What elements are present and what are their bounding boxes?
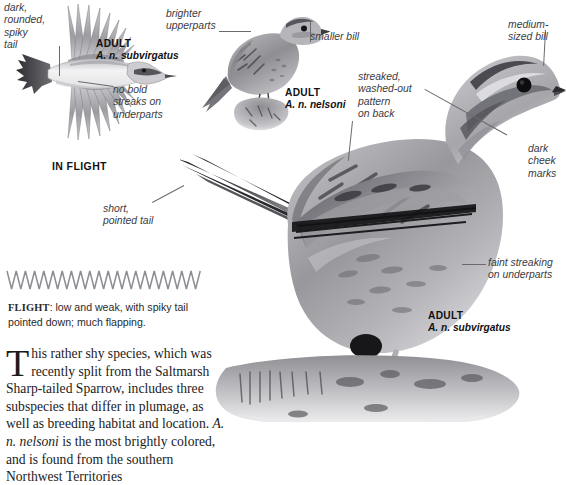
label-brighter-upperparts: brighter upperparts <box>166 8 216 33</box>
flight-pattern-zigzag <box>6 268 206 292</box>
label-medium-sized-bill: medium- sized bill <box>508 19 548 44</box>
main-perch-rock <box>216 355 520 422</box>
zigzag-svg <box>6 268 206 292</box>
caption-nelsoni-adult: ADULT A. n. nelsoni <box>285 87 346 110</box>
caption-flight-adult-line2: A. n. subvirgatus <box>96 50 179 61</box>
leader-brighter-upperparts <box>219 31 251 32</box>
zigzag-polyline <box>7 271 200 289</box>
caption-nelsoni-adult-line2: A. n. nelsoni <box>285 99 346 110</box>
caption-flight-adult: ADULT A. n. subvirgatus <box>96 38 179 61</box>
body-paragraph-part1: his rather shy species, which was recent… <box>6 346 212 431</box>
main-eye <box>517 78 532 93</box>
label-streaked-washed-out: streaked, washed-out pattern on back <box>358 71 412 121</box>
flight-note: FLIGHT: low and weak, with spiky tail po… <box>8 300 223 330</box>
body-paragraph: This rather shy species, which was recen… <box>6 345 230 485</box>
leader-dark-tail <box>59 46 60 76</box>
caption-flight-adult-line1: ADULT <box>96 38 131 49</box>
caption-main-adult-line1: ADULT <box>428 310 463 321</box>
caption-main-adult-line2: A. n. subvirgatus <box>428 322 511 333</box>
label-short-pointed-tail: short, pointed tail <box>103 203 153 228</box>
label-faint-streaking: faint streaking on underparts <box>488 257 553 282</box>
caption-nelsoni-adult-line1: ADULT <box>285 87 320 98</box>
label-smaller-bill: smaller bill <box>310 31 359 43</box>
label-no-bold-streaks: no bold streaks on underparts <box>113 84 163 121</box>
drop-cap: T <box>6 346 31 379</box>
dark-spiky-tail <box>16 54 52 94</box>
flight-note-heading: FLIGHT <box>8 302 50 313</box>
caption-in-flight: IN FLIGHT <box>52 160 107 172</box>
label-dark-cheek-marks: dark cheek marks <box>528 143 556 180</box>
caption-main-adult: ADULT A. n. subvirgatus <box>428 310 511 333</box>
label-dark-rounded-spiky-tail: dark, rounded, spiky tail <box>4 2 45 52</box>
leader-faint-streaking <box>462 264 486 265</box>
